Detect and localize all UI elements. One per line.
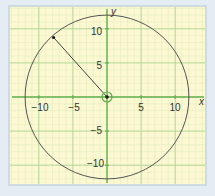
circle-point <box>52 36 55 39</box>
centre-point <box>105 95 109 99</box>
ytick-label: 5 <box>96 60 102 71</box>
xtick-label: −5 <box>68 102 80 113</box>
x-axis-label: x <box>198 96 205 107</box>
ytick-label: −5 <box>91 125 103 136</box>
ytick-label: −10 <box>87 158 104 169</box>
ytick-label: 10 <box>91 26 103 37</box>
coordinate-plane: −10 −5 5 10 10 5 −5 −10 x y <box>0 0 215 196</box>
y-axis-label: y <box>110 6 117 17</box>
xtick-label: 10 <box>169 102 181 113</box>
xtick-label: −10 <box>32 102 49 113</box>
xtick-label: 5 <box>138 102 144 113</box>
